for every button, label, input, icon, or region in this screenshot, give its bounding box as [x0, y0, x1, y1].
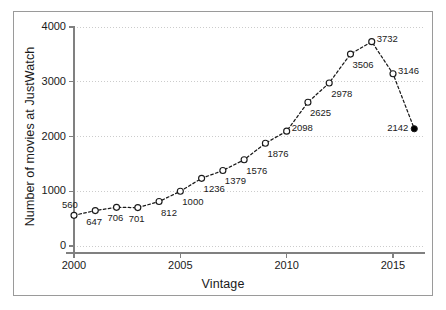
chart-plot-area: Number of movies at JustWatch Vintage 01…	[0, 0, 446, 310]
data-point-marker	[220, 168, 226, 174]
data-point-label: 1000	[182, 196, 203, 207]
data-point-label: 647	[86, 216, 102, 227]
data-point-label: 701	[129, 213, 145, 224]
data-point-marker	[347, 51, 353, 57]
y-tick-label: 1000	[42, 184, 66, 196]
data-point-marker	[369, 39, 375, 45]
x-tick-label: 2015	[378, 259, 408, 271]
data-point-marker	[262, 140, 268, 146]
y-tick-label: 0	[60, 239, 66, 251]
x-tick-label: 2005	[165, 259, 195, 271]
data-point-label: 1876	[267, 148, 288, 159]
data-point-marker	[199, 175, 205, 181]
data-point-label: 2142	[387, 122, 408, 133]
x-tick-label: 2000	[59, 259, 89, 271]
data-point-marker	[156, 199, 162, 205]
data-point-marker	[305, 99, 311, 105]
data-point-marker	[135, 205, 141, 211]
x-tick-label: 2010	[272, 259, 302, 271]
data-point-marker	[177, 188, 183, 194]
y-axis-label: Number of movies at JustWatch	[23, 47, 37, 227]
data-point-label: 1236	[204, 183, 225, 194]
data-point-label: 1379	[225, 175, 246, 186]
y-tick-label: 4000	[42, 20, 66, 32]
data-point-marker	[92, 208, 98, 214]
data-point-marker-filled	[411, 126, 417, 132]
data-point-marker	[71, 212, 77, 218]
tick-marks	[69, 27, 393, 258]
data-point-marker	[241, 157, 247, 163]
data-point-label: 2098	[292, 122, 313, 133]
data-point-marker	[284, 128, 290, 134]
data-point-label: 812	[161, 207, 177, 218]
data-point-label: 3506	[352, 59, 373, 70]
data-point-label: 2625	[310, 107, 331, 118]
data-point-marker	[326, 80, 332, 86]
data-point-label: 560	[62, 199, 78, 210]
data-point-marker	[390, 71, 396, 77]
data-point-label: 2978	[331, 88, 352, 99]
figure: Number of movies at JustWatch Vintage 01…	[0, 0, 446, 310]
data-point-marker	[114, 204, 120, 210]
data-point-label: 3146	[398, 65, 419, 76]
data-point-label: 706	[108, 212, 124, 223]
y-tick-label: 2000	[42, 130, 66, 142]
data-point-label: 1576	[246, 165, 267, 176]
data-point-label: 3732	[377, 33, 398, 44]
y-tick-label: 3000	[42, 75, 66, 87]
x-axis-label: Vintage	[0, 277, 446, 291]
